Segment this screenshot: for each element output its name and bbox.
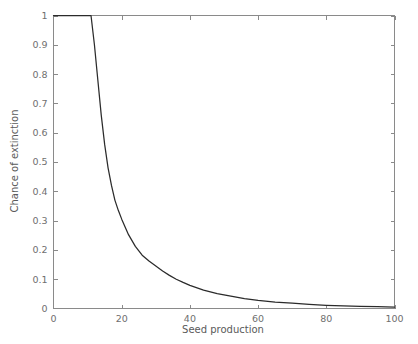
x-tick-label: 0	[50, 313, 56, 324]
y-tick-label: 0.6	[32, 127, 47, 138]
x-tick-label: 80	[320, 313, 332, 324]
plot-background	[53, 15, 394, 308]
x-tick-label: 100	[385, 313, 403, 324]
y-tick-label: 0.2	[32, 244, 47, 255]
y-axis-title: Chance of extinction	[9, 109, 20, 212]
x-tick-label: 40	[184, 313, 196, 324]
y-tick-label: 0.9	[32, 39, 47, 50]
y-tick-label: 0.8	[32, 69, 47, 80]
y-tick-label: 1	[41, 10, 47, 21]
x-axis-title: Seed production	[182, 324, 264, 335]
y-tick-label: 0.4	[32, 186, 47, 197]
y-tick-label: 0	[41, 303, 47, 314]
x-tick-labels: 020406080100	[50, 313, 403, 324]
x-tick-label: 60	[252, 313, 264, 324]
y-tick-labels: 00.10.20.30.40.50.60.70.80.91	[32, 10, 47, 314]
y-tick-label: 0.5	[32, 156, 47, 167]
y-tick-label: 0.7	[32, 98, 47, 109]
chart-figure: 020406080100 00.10.20.30.40.50.60.70.80.…	[0, 0, 418, 344]
extinction-vs-seed-production-chart: 020406080100 00.10.20.30.40.50.60.70.80.…	[0, 0, 418, 344]
x-tick-label: 20	[116, 313, 128, 324]
y-tick-label: 0.3	[32, 215, 47, 226]
y-tick-label: 0.1	[32, 274, 47, 285]
